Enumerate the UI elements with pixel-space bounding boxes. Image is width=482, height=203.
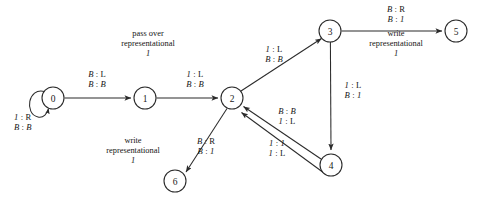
node-6[interactable]: 6	[164, 170, 186, 192]
annotation-write-representational-1-to-5: write representational 1	[369, 29, 422, 60]
edge-label-0-self-line2: B : B	[14, 122, 32, 132]
annotation-write-6-line3: 1	[106, 156, 159, 166]
edge-label-1-2: 1 : L B : B	[186, 69, 204, 90]
edge-label-0-self: 1 : R B : B	[14, 112, 32, 133]
edge-label-4-2-upper-line2: 1 : L	[278, 116, 296, 126]
edge-label-3-5: B : R B : 1	[387, 4, 405, 25]
edge-label-3-4-line1: 1 : L	[345, 80, 362, 90]
node-1[interactable]: 1	[134, 87, 156, 109]
edge-label-0-1-line2: B : B	[88, 79, 106, 89]
annotation-write-5-line2: representational	[369, 39, 422, 49]
annotation-write-representational-1-to-6: write representational 1	[106, 136, 159, 167]
node-3-label: 3	[328, 27, 333, 37]
edge-label-4-2-lower-line2: 1 : L	[269, 148, 286, 158]
edge-label-2-6-line1: B : R	[197, 136, 215, 146]
edge-label-4-2-upper: B : B 1 : L	[278, 106, 296, 127]
annotation-pass-over-representational-1: pass over representational 1	[121, 29, 174, 60]
annotation-write-5-line1: write	[369, 29, 422, 39]
edge-label-2-3-line2: B : B	[265, 54, 283, 64]
edge-label-4-2-upper-line1: B : B	[278, 106, 296, 116]
node-2-label: 2	[230, 94, 235, 104]
edge-label-2-3: 1 : L B : B	[265, 44, 283, 65]
node-5-label: 5	[454, 27, 459, 37]
edge-label-3-4: 1 : L B : 1	[345, 80, 362, 101]
edge-label-0-self-line1: 1 : R	[14, 112, 32, 122]
edge-label-3-5-line2: B : 1	[387, 14, 405, 24]
edge-label-1-2-line1: 1 : L	[186, 69, 204, 79]
annotation-write-6-line2: representational	[106, 146, 159, 156]
annotation-pass-over-line2: representational	[121, 39, 174, 49]
node-2[interactable]: 2	[221, 87, 243, 109]
edge-label-0-1: B : L B : B	[88, 69, 106, 90]
annotation-pass-over-line1: pass over	[121, 29, 174, 39]
edge-label-3-4-line2: B : 1	[345, 90, 362, 100]
edge-label-2-6-line2: B : 1	[197, 146, 215, 156]
caption-fragment	[0, 197, 482, 203]
edge-label-2-6: B : R B : 1	[197, 136, 215, 157]
node-3[interactable]: 3	[319, 20, 341, 42]
annotation-write-5-line3: 1	[369, 49, 422, 59]
node-5[interactable]: 5	[445, 20, 467, 42]
edge-label-0-1-line1: B : L	[88, 69, 106, 79]
annotation-pass-over-line3: 1	[121, 49, 174, 59]
state-diagram: 0 1 2 3 4 5 6 1 : R B : B	[0, 0, 482, 203]
node-1-label: 1	[143, 94, 148, 104]
node-4-label: 4	[329, 161, 334, 171]
node-0[interactable]: 0	[42, 87, 64, 109]
edge-label-2-3-line1: 1 : L	[265, 44, 283, 54]
edge-label-1-2-line2: B : B	[186, 79, 204, 89]
annotation-write-6-line1: write	[106, 136, 159, 146]
node-0-label: 0	[51, 94, 56, 104]
node-4[interactable]: 4	[320, 154, 342, 176]
node-6-label: 6	[173, 177, 178, 187]
edge-label-3-5-line1: B : R	[387, 4, 405, 14]
edge-3-to-4	[330, 42, 331, 150]
edge-label-4-2-lower-line1: 1 : 1	[269, 138, 286, 148]
edge-label-4-2-lower: 1 : 1 1 : L	[269, 138, 286, 159]
